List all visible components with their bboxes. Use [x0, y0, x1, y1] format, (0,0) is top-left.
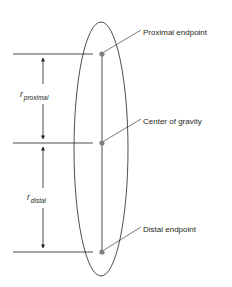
segment-outline	[74, 22, 128, 276]
segment-diagram: rproximal rdistal Proximal endpoint Cent…	[0, 0, 232, 287]
proximal-endpoint-label: Proximal endpoint	[143, 28, 208, 37]
distal-leader-line	[104, 227, 141, 250]
r-proximal-label: rproximal	[20, 89, 49, 102]
proximal-leader-line	[104, 30, 141, 52]
proximal-endpoint-marker	[99, 51, 104, 56]
center-of-gravity-label: Center of gravity	[143, 117, 202, 126]
distal-endpoint-marker	[99, 249, 104, 254]
r-distal-label: rdistal	[27, 192, 47, 204]
cog-leader-line	[104, 119, 141, 141]
center-of-gravity-marker	[99, 140, 104, 145]
distal-endpoint-label: Distal endpoint	[143, 225, 197, 234]
